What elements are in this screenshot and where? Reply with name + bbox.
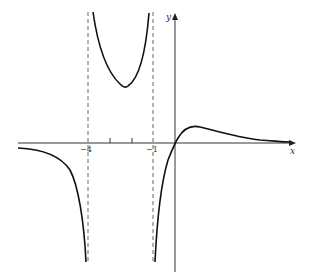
tick-label-neg1: −1 (146, 145, 158, 154)
y-axis-label: y (165, 12, 172, 22)
curve-middle-branch (93, 12, 149, 87)
curve-left-branch (18, 148, 86, 262)
y-axis-arrow-icon (172, 13, 178, 20)
tick-label-neg4: −4 (80, 145, 92, 154)
graph-canvas: x y −4 −1 (0, 0, 311, 276)
x-axis-label: x (290, 146, 295, 156)
